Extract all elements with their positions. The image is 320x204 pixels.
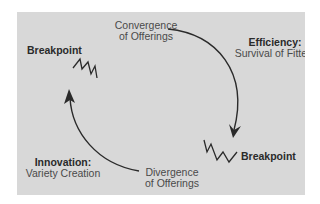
- breakpoint-zigzag-top-left-icon: [73, 59, 97, 78]
- efficiency-arrow: [168, 29, 238, 130]
- innovation-arrowhead-icon: [64, 89, 75, 104]
- divergence-label-line2: of Offerings: [127, 178, 217, 189]
- divergence-label: Divergence of Offerings: [127, 167, 217, 189]
- breakpoint-label-bottom-right: Breakpoint: [241, 151, 296, 162]
- efficiency-subtitle: Survival of Fittest: [230, 48, 305, 59]
- efficiency-label: Efficiency: Survival of Fittest: [230, 37, 305, 59]
- breakpoint-zigzag-bottom-right-icon: [204, 140, 237, 162]
- convergence-label: Convergence of Offerings: [101, 20, 191, 42]
- innovation-subtitle: Variety Creation: [23, 168, 103, 179]
- innovation-label: Innovation: Variety Creation: [23, 157, 103, 179]
- breakpoint-label-top-left: Breakpoint: [27, 45, 82, 56]
- diagram-panel: Convergence of Offerings Breakpoint Effi…: [17, 12, 305, 195]
- convergence-label-line2: of Offerings: [101, 31, 191, 42]
